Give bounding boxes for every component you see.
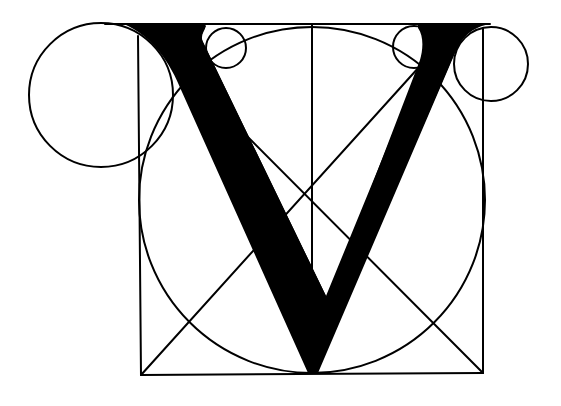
right-serif-circle bbox=[454, 27, 528, 101]
letter-construction-diagram bbox=[0, 0, 561, 406]
diagram-svg bbox=[0, 0, 561, 406]
left-large-serif-circle bbox=[29, 23, 173, 167]
